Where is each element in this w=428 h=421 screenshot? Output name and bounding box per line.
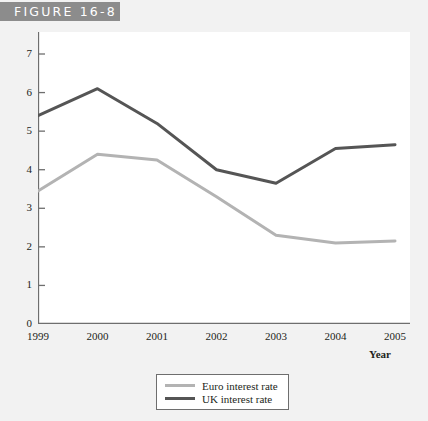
legend-item-euro: Euro interest rate (165, 379, 278, 392)
y-tick-label: 4 (6, 163, 32, 175)
x-tick-label: 2001 (130, 330, 184, 342)
chart-svg (38, 32, 410, 324)
legend-label-uk: UK interest rate (202, 393, 272, 405)
x-tick-label: 2003 (249, 330, 303, 342)
y-tick-label: 2 (6, 240, 32, 252)
line-chart (38, 32, 410, 324)
y-tick-label: 1 (6, 278, 32, 290)
x-tick-label: 2000 (71, 330, 125, 342)
x-tick-label: 1999 (11, 330, 65, 342)
x-tick-label: 2004 (309, 330, 363, 342)
legend-swatch-uk (165, 397, 195, 400)
legend-item-uk: UK interest rate (165, 392, 278, 405)
y-tick-label: 6 (6, 86, 32, 98)
x-axis-title: Year (352, 348, 408, 360)
x-tick-label: 2005 (368, 330, 422, 342)
legend-label-euro: Euro interest rate (202, 380, 278, 392)
y-tick-label: 7 (6, 47, 32, 59)
y-tick-label: 5 (6, 124, 32, 136)
figure-label: FIGURE 16-8 (14, 4, 117, 19)
x-tick-label: 2002 (190, 330, 244, 342)
legend-swatch-euro (165, 384, 195, 387)
chart-legend: Euro interest rate UK interest rate (156, 374, 289, 410)
figure-banner: FIGURE 16-8 (0, 2, 120, 21)
y-tick-label: 3 (6, 201, 32, 213)
y-tick-label: 0 (6, 317, 32, 329)
